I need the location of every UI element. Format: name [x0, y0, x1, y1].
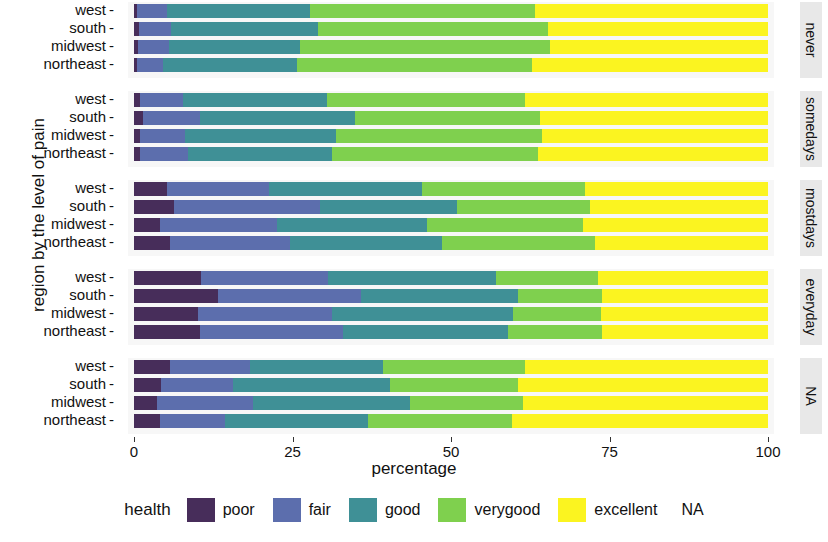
x-axis-title: percentage: [0, 459, 828, 479]
y-tick-label: midwest-: [51, 395, 114, 409]
bar-segment-fair: [160, 218, 277, 232]
bar-segment-poor: [134, 218, 160, 232]
y-tick-label-text: south: [69, 19, 106, 36]
legend-swatch-good: [349, 498, 377, 522]
facet-strip-label: NA: [800, 358, 822, 434]
y-tick-label-text: northeast: [43, 322, 106, 339]
stacked-bar: [134, 200, 768, 214]
y-tick-label-text: midwest: [51, 393, 106, 410]
bar-segment-excellent: [550, 40, 768, 54]
row-label-column: west-south-midwest-northeast-: [0, 89, 126, 169]
bar-segment-verygood: [318, 22, 548, 36]
y-tick-mark: -: [109, 110, 114, 124]
bar-segment-poor: [134, 200, 174, 214]
facet-strip-text: mostdays: [803, 188, 819, 248]
y-tick-label-text: west: [75, 357, 106, 374]
bar-segment-verygood: [442, 236, 595, 250]
stacked-bar: [134, 182, 768, 196]
stacked-bar: [134, 414, 768, 428]
stacked-bar: [134, 22, 768, 36]
stacked-bar: [134, 40, 768, 54]
y-tick-label: northeast-: [43, 413, 114, 427]
bar-segment-poor: [134, 307, 198, 321]
y-tick-label: northeast-: [43, 57, 114, 71]
y-tick-mark: -: [109, 377, 114, 391]
bar-segment-fair: [174, 200, 320, 214]
bar-segment-good: [277, 218, 427, 232]
y-tick-label-text: west: [75, 179, 106, 196]
bar-segment-poor: [134, 360, 170, 374]
bar-segment-excellent: [602, 325, 768, 339]
legend-label-excellent: excellent: [594, 501, 657, 519]
bar-segment-excellent: [542, 129, 768, 143]
stacked-bar: [134, 58, 768, 72]
y-tick-mark: -: [109, 21, 114, 35]
bar-segment-excellent: [583, 218, 768, 232]
stacked-bar: [134, 111, 768, 125]
y-tick-label-text: midwest: [51, 304, 106, 321]
bar-segment-excellent: [525, 360, 768, 374]
legend-label-verygood: verygood: [474, 501, 540, 519]
legend-item-good[interactable]: good: [349, 498, 421, 522]
y-tick-label: south-: [69, 199, 114, 213]
x-tick-mark: [134, 437, 135, 442]
stacked-bar: [134, 396, 768, 410]
legend-label-fair: fair: [309, 501, 331, 519]
bar-segment-verygood: [383, 360, 525, 374]
x-tick-mark: [768, 437, 769, 442]
bar-segment-good: [253, 396, 410, 410]
facet-strip-label: somedays: [800, 91, 822, 167]
x-tick-mark: [451, 437, 452, 442]
legend: healthpoorfairgoodverygoodexcellentNA: [0, 498, 828, 522]
y-tick-label-text: west: [75, 90, 106, 107]
bar-segment-good: [332, 307, 513, 321]
bar-segment-verygood: [332, 147, 538, 161]
bar-segment-excellent: [601, 307, 768, 321]
bar-segment-fair: [137, 58, 163, 72]
bar-segment-poor: [134, 325, 200, 339]
stacked-bar: [134, 129, 768, 143]
legend-item-excellent[interactable]: excellent: [558, 498, 657, 522]
y-tick-label-text: south: [69, 108, 106, 125]
y-tick-label: south-: [69, 288, 114, 302]
legend-swatch-excellent: [558, 498, 586, 522]
bar-segment-good: [185, 129, 337, 143]
y-tick-mark: -: [109, 413, 114, 427]
y-tick-mark: -: [109, 270, 114, 284]
bar-segment-fair: [170, 236, 290, 250]
facet-strip-label: never: [800, 2, 822, 78]
row-label-column: west-south-midwest-northeast-: [0, 178, 126, 258]
facet-strip-label: mostdays: [800, 180, 822, 256]
bar-segment-verygood: [300, 40, 550, 54]
bar-segment-fair: [170, 360, 250, 374]
bar-segment-good: [343, 325, 508, 339]
y-tick-label-text: northeast: [43, 144, 106, 161]
y-tick-label: west-: [75, 270, 114, 284]
row-label-column: west-south-midwest-northeast-: [0, 356, 126, 436]
legend-item-verygood[interactable]: verygood: [438, 498, 540, 522]
y-tick-mark: -: [109, 199, 114, 213]
bar-segment-excellent: [548, 22, 768, 36]
y-tick-label-text: northeast: [43, 233, 106, 250]
bar-segment-fair: [138, 40, 168, 54]
y-tick-mark: -: [109, 3, 114, 17]
row-label-column: west-south-midwest-northeast-: [0, 0, 126, 80]
bar-segment-excellent: [535, 4, 768, 18]
legend-swatch-verygood: [438, 498, 466, 522]
bar-segment-poor: [134, 289, 218, 303]
legend-item-fair[interactable]: fair: [273, 498, 331, 522]
bar-segment-good: [233, 378, 390, 392]
y-tick-label-text: midwest: [51, 37, 106, 54]
bar-segment-verygood: [496, 271, 598, 285]
y-tick-label-text: south: [69, 286, 106, 303]
x-tick-mark: [610, 437, 611, 442]
y-tick-label: west-: [75, 3, 114, 17]
bar-segment-good: [361, 289, 518, 303]
x-tick-label: 100: [755, 443, 780, 460]
y-tick-label: west-: [75, 92, 114, 106]
legend-item-poor[interactable]: poor: [187, 498, 255, 522]
bar-segment-poor: [134, 236, 170, 250]
stacked-bar: [134, 360, 768, 374]
bar-segment-fair: [137, 4, 167, 18]
facet-panel: west-south-midwest-northeast-mostdays: [0, 178, 828, 258]
